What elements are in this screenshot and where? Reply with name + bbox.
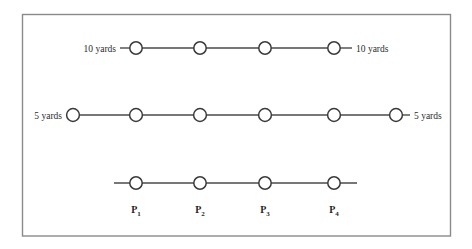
marker-point-1 [130,177,142,189]
point-label-p2: P2 [195,204,205,218]
point-label-p1-sub: 1 [137,210,141,218]
yard-line-diagram: 10 yards 10 yards 5 yards 5 yards [0,0,472,249]
figure-root: 10 yards 10 yards 5 yards 5 yards [0,0,472,249]
point-label-p3: P3 [260,204,270,218]
marker-5yd-3 [259,109,272,122]
marker-5yd-5 [390,109,403,122]
point-label-group: P1 P2 P3 P4 [131,204,339,218]
marker-10yd-3 [259,42,271,54]
point-label-p4: P4 [329,204,339,218]
label-5-yards-right: 5 yards [414,111,442,121]
marker-5yd-2 [194,109,207,122]
point-label-p4-sub: 4 [335,210,339,218]
marker-point-3 [259,177,271,189]
row-5-yards: 5 yards 5 yards [34,109,442,122]
marker-10yd-2 [194,42,206,54]
label-5-yards-left: 5 yards [34,111,62,121]
row-10-yards: 10 yards 10 yards [84,42,389,54]
row-points [114,177,357,189]
label-10-yards-left: 10 yards [84,44,117,54]
marker-point-4 [328,177,340,189]
marker-10yd-1 [130,42,142,54]
marker-5yd-4 [328,109,341,122]
point-label-p3-sub: 3 [266,210,270,218]
marker-10yd-4 [328,42,340,54]
label-10-yards-right: 10 yards [356,44,389,54]
marker-5yd-1 [130,109,143,122]
marker-5yd-0 [67,109,80,122]
point-label-p2-sub: 2 [201,210,205,218]
point-label-p1: P1 [131,204,141,218]
marker-point-2 [194,177,206,189]
